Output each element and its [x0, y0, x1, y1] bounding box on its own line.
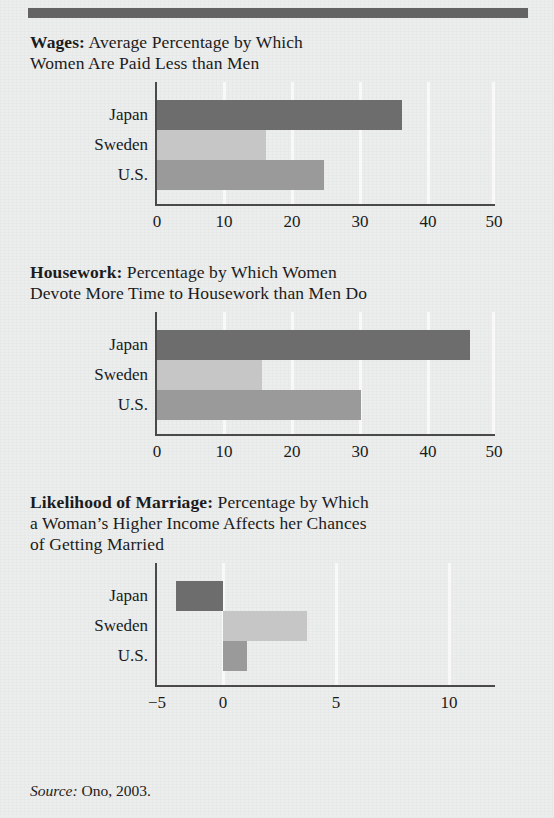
x-tick-20: 20 [284, 212, 301, 232]
category-label-sweden: Sweden [0, 611, 148, 641]
gridline-10 [448, 563, 451, 685]
bar-wages-japan [157, 100, 402, 130]
category-label-us: U.S. [0, 390, 148, 420]
category-label-sweden: Sweden [0, 360, 148, 390]
chart-title-wages-line2: Women Are Paid Less than Men [30, 53, 524, 74]
gridline-50 [492, 82, 495, 204]
chart-marriage: Japan Sweden U.S. −5 0 5 10 [0, 563, 554, 705]
bar-housework-japan [157, 330, 470, 360]
x-tick-10: 10 [216, 212, 233, 232]
x-tick-10: 10 [441, 693, 458, 713]
source-label: Source: [30, 782, 78, 799]
bar-marriage-sweden [223, 611, 307, 641]
bar-wages-us [157, 160, 324, 190]
chart-wages: Japan Sweden U.S. 0 10 20 30 40 50 [0, 82, 554, 224]
x-tick-50: 50 [486, 442, 503, 462]
x-axis-line-housework [155, 434, 495, 436]
x-tick-0: 0 [153, 442, 162, 462]
chart-title-wages-line1: Average Percentage by Which [85, 32, 303, 52]
figure-page: Wages: Average Percentage by Which Women… [0, 0, 554, 818]
x-tick-50: 50 [486, 212, 503, 232]
category-labels-housework: Japan Sweden U.S. [0, 330, 148, 420]
category-label-japan: Japan [0, 100, 148, 130]
plot-area-wages [155, 82, 495, 206]
x-tick-10: 10 [216, 442, 233, 462]
gridline-50 [492, 312, 495, 434]
category-labels-wages: Japan Sweden U.S. [0, 100, 148, 190]
bar-housework-us [157, 390, 361, 420]
chart-title-wages-bold: Wages: [30, 32, 85, 52]
category-label-japan: Japan [0, 330, 148, 360]
x-axis-line-marriage [155, 685, 495, 687]
chart-title-housework: Housework: Percentage by Which Women Dev… [0, 262, 554, 304]
chart-block-marriage: Likelihood of Marriage: Percentage by Wh… [0, 492, 554, 705]
x-axis-line-wages [155, 204, 495, 206]
bar-housework-sweden [157, 360, 262, 390]
x-tick-labels-housework: 0 10 20 30 40 50 [155, 442, 495, 466]
plot-area-housework [155, 312, 495, 436]
plot-area-marriage [155, 563, 495, 687]
x-tick-0: 0 [219, 693, 228, 713]
category-label-sweden: Sweden [0, 130, 148, 160]
chart-title-marriage: Likelihood of Marriage: Percentage by Wh… [0, 492, 554, 555]
y-axis-line-marriage [155, 563, 157, 687]
chart-title-housework-bold: Housework: [30, 262, 122, 282]
category-label-us: U.S. [0, 641, 148, 671]
top-rule [28, 8, 528, 18]
x-tick-0: 0 [153, 212, 162, 232]
chart-title-marriage-line3: of Getting Married [30, 534, 524, 555]
chart-title-housework-line1: Percentage by Which Women [122, 262, 336, 282]
x-tick-30: 30 [352, 442, 369, 462]
bar-marriage-japan [176, 581, 223, 611]
bar-marriage-us [223, 641, 247, 671]
x-tick-neg5: −5 [148, 693, 166, 713]
x-tick-20: 20 [284, 442, 301, 462]
chart-block-wages: Wages: Average Percentage by Which Women… [0, 32, 554, 224]
chart-block-housework: Housework: Percentage by Which Women Dev… [0, 262, 554, 454]
gridline-40 [427, 82, 430, 204]
x-tick-labels-wages: 0 10 20 30 40 50 [155, 212, 495, 236]
x-tick-30: 30 [352, 212, 369, 232]
chart-housework: Japan Sweden U.S. 0 10 20 30 40 50 [0, 312, 554, 454]
chart-title-marriage-line2: a Woman’s Higher Income Affects her Chan… [30, 513, 524, 534]
category-label-us: U.S. [0, 160, 148, 190]
chart-title-marriage-bold: Likelihood of Marriage: [30, 492, 213, 512]
chart-title-wages: Wages: Average Percentage by Which Women… [0, 32, 554, 74]
bar-wages-sweden [157, 130, 266, 160]
x-tick-labels-marriage: −5 0 5 10 [155, 693, 495, 717]
x-tick-40: 40 [420, 212, 437, 232]
chart-title-housework-line2: Devote More Time to Housework than Men D… [30, 283, 524, 304]
x-tick-40: 40 [420, 442, 437, 462]
chart-title-marriage-line1: Percentage by Which [213, 492, 369, 512]
source-text: Ono, 2003. [78, 782, 151, 799]
category-label-japan: Japan [0, 581, 148, 611]
x-tick-5: 5 [332, 693, 341, 713]
gridline-5 [335, 563, 338, 685]
category-labels-marriage: Japan Sweden U.S. [0, 581, 148, 671]
source-note: Source: Ono, 2003. [30, 782, 151, 800]
